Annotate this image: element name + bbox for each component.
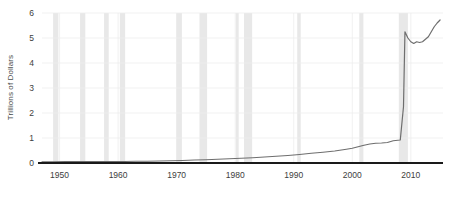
x-axis-tick-label: 1970 — [167, 170, 186, 180]
y-axis-tick-label: 1 — [29, 133, 34, 143]
y-axis-tick-label: 0 — [29, 158, 34, 168]
x-axis-tick-label: 1960 — [109, 170, 128, 180]
data-line-group — [42, 20, 440, 162]
y-tick-labels-group: 0123456 — [29, 8, 34, 168]
x-axis-tick-label: 2000 — [343, 170, 362, 180]
x-axis-tick-label: 1990 — [284, 170, 303, 180]
gridlines-group — [42, 13, 443, 163]
y-axis-tick-label: 2 — [29, 108, 34, 118]
x-axis-tick-label: 2010 — [401, 170, 420, 180]
x-axis-tick-label: 1950 — [50, 170, 69, 180]
x-axis-tick-label: 1980 — [226, 170, 245, 180]
chart-container: Trillions of Dollars 0123456 19501960197… — [0, 0, 462, 203]
line-chart-plot: 0123456 1950196019701980199020002010 — [0, 0, 462, 203]
x-tick-labels-group: 1950196019701980199020002010 — [50, 170, 420, 180]
y-axis-tick-label: 5 — [29, 33, 34, 43]
data-series-line — [42, 20, 440, 162]
y-axis-tick-label: 4 — [29, 58, 34, 68]
y-axis-tick-label: 3 — [29, 83, 34, 93]
y-axis-tick-label: 6 — [29, 8, 34, 18]
